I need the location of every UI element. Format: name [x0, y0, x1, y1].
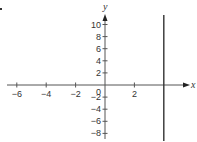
y-axis-label: y [102, 1, 108, 12]
x-axis-arrow-icon [183, 83, 190, 88]
x-tick-label: −6 [12, 89, 22, 99]
chart: −6−4−22108642−2−4−6−8 x y 0 [0, 0, 197, 142]
origin-label: 0 [96, 87, 101, 97]
ticks: −6−4−22108642−2−4−6−8 [12, 20, 137, 139]
y-tick-label: 10 [91, 20, 101, 30]
y-axis-arrow-icon [103, 14, 108, 21]
y-tick-label: 2 [96, 68, 101, 78]
y-tick-label: −6 [91, 116, 101, 126]
y-tick-label: 6 [96, 44, 101, 54]
y-tick-label: −8 [91, 128, 101, 138]
x-tick-label: −2 [70, 89, 80, 99]
x-tick-label: −4 [41, 89, 51, 99]
x-tick-label: 2 [132, 89, 137, 99]
y-tick-label: 8 [96, 32, 101, 42]
y-tick-label: −4 [91, 104, 101, 114]
x-axis-label: x [190, 79, 196, 90]
y-tick-label: 4 [96, 56, 101, 66]
